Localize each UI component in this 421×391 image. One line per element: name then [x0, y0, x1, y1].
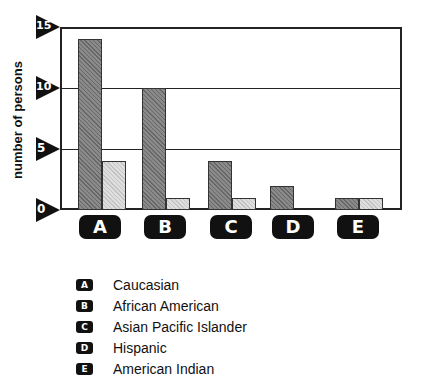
- bar-b-dark: [142, 88, 166, 210]
- bar-c-light: [232, 198, 256, 210]
- bar-e-light: [359, 198, 383, 210]
- legend-item-e: EAmerican Indian: [76, 358, 247, 379]
- legend: ACaucasian BAfrican American CAsian Paci…: [76, 274, 247, 379]
- gridline-10: [60, 88, 402, 89]
- y-axis-label: number of persons: [2, 45, 32, 195]
- legend-label: Hispanic: [113, 340, 167, 356]
- legend-item-a: ACaucasian: [76, 274, 247, 295]
- bar-a-dark: [78, 39, 102, 210]
- y-tick-15: 15: [36, 15, 60, 39]
- bar-b-light: [166, 198, 190, 210]
- legend-item-c: CAsian Pacific Islander: [76, 316, 247, 337]
- y-tick-10: 10: [36, 76, 60, 100]
- legend-item-b: BAfrican American: [76, 295, 247, 316]
- legend-badge: D: [76, 342, 93, 354]
- bar-e-dark: [335, 198, 359, 210]
- legend-badge: E: [76, 363, 93, 375]
- legend-label: Asian Pacific Islander: [113, 319, 247, 335]
- category-b: B: [144, 215, 186, 239]
- y-tick-5: 5: [36, 137, 60, 161]
- legend-label: Caucasian: [113, 277, 179, 293]
- bar-c-dark: [208, 161, 232, 210]
- legend-badge: A: [76, 279, 93, 291]
- legend-badge: C: [76, 321, 93, 333]
- legend-label: African American: [113, 298, 219, 314]
- category-c: C: [210, 215, 252, 239]
- category-e: E: [337, 215, 379, 239]
- category-a: A: [79, 215, 121, 239]
- legend-label: American Indian: [113, 361, 214, 377]
- bar-d-dark: [270, 186, 294, 210]
- gridline-5: [60, 149, 402, 150]
- bar-a-light: [102, 161, 126, 210]
- y-tick-0: 0: [36, 198, 60, 222]
- category-d: D: [272, 215, 314, 239]
- legend-badge: B: [76, 300, 93, 312]
- legend-item-d: DHispanic: [76, 337, 247, 358]
